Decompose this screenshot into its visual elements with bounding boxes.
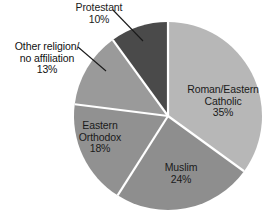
- pie-label-other-religion: Other religion/ no affiliation 13%: [1, 41, 93, 76]
- pie-label-protestant: Protestant 10%: [55, 2, 143, 25]
- pie-label-muslim: Muslim 24%: [145, 162, 217, 185]
- pie-label-eastern-orthodox: Eastern Orthodox 18%: [62, 120, 138, 155]
- pie-label-roman-eastern-catholic: Roman/Eastern Catholic 35%: [177, 84, 269, 119]
- pie-chart: Protestant 10% Other religion/ no affili…: [0, 0, 270, 221]
